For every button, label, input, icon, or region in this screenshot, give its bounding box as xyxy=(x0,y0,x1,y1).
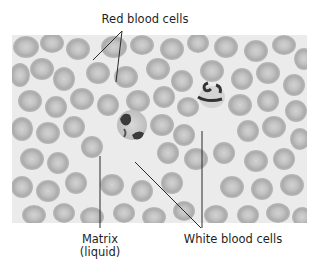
label-matrix-liquid: (liquid) xyxy=(80,246,120,259)
rbc-leader-line-1 xyxy=(93,31,122,60)
label-red-blood-cells: Red blood cells xyxy=(102,13,189,26)
rbc-leader-line-2 xyxy=(116,31,122,82)
wbc-leader-line-1 xyxy=(135,162,201,228)
blood-smear-figure: Red blood cells Matrix (liquid) White bl… xyxy=(0,0,321,272)
label-white-blood-cells: White blood cells xyxy=(184,233,282,246)
